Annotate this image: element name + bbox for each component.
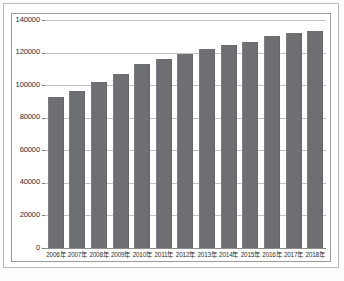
bar-series	[45, 20, 326, 248]
bar-slot	[239, 20, 261, 248]
y-axis-tick-label: 20000	[20, 211, 40, 219]
bar-2015年[interactable]	[242, 42, 258, 248]
bar-2017年[interactable]	[286, 33, 302, 248]
bar-2016年[interactable]	[264, 36, 280, 248]
bar-2014年[interactable]	[221, 45, 237, 248]
x-axis-tick-label: 2006年	[45, 250, 67, 259]
bar-2018年[interactable]	[307, 31, 323, 248]
bar-2012年[interactable]	[177, 54, 193, 248]
bar-slot	[110, 20, 132, 248]
figure-caption	[96, 272, 306, 279]
bar-slot	[153, 20, 175, 248]
x-axis-tick-label: 2014年	[218, 250, 240, 259]
bar-slot	[218, 20, 240, 248]
x-axis-tick-label: 2009年	[110, 250, 132, 259]
bar-2008年[interactable]	[91, 82, 107, 248]
y-axis-tick-label: 60000	[20, 146, 40, 154]
bar-slot	[304, 20, 326, 248]
x-axis-tick-label: 2016年	[261, 250, 283, 259]
x-axis-tick-label: 2008年	[88, 250, 110, 259]
bar-chart-figure: 020000400006000080000100000120000140000 …	[0, 0, 344, 281]
x-axis-labels: 2006年2007年2008年2009年2010年2011年2012年2013年…	[45, 250, 326, 259]
bar-slot	[88, 20, 110, 248]
x-axis-tick-label: 2010年	[131, 250, 153, 259]
bar-slot	[45, 20, 67, 248]
bar-slot	[175, 20, 197, 248]
x-axis-tick-label: 2007年	[67, 250, 89, 259]
gridline-0	[45, 248, 326, 249]
y-axis-tick-label: 120000	[16, 48, 40, 56]
x-axis-tick-label: 2018年	[304, 250, 326, 259]
plot-area: 020000400006000080000100000120000140000	[45, 20, 326, 248]
bar-2013年[interactable]	[199, 49, 215, 248]
bar-slot	[131, 20, 153, 248]
bar-slot	[261, 20, 283, 248]
y-axis-tick-label: 0	[36, 244, 40, 252]
x-axis-tick-label: 2015年	[239, 250, 261, 259]
bar-2009年[interactable]	[113, 74, 129, 248]
bar-slot	[67, 20, 89, 248]
y-axis-tick-label: 140000	[16, 16, 40, 24]
x-axis-tick-label: 2017年	[283, 250, 305, 259]
x-axis-tick-label: 2011年	[153, 250, 175, 259]
bar-2007年[interactable]	[69, 91, 85, 248]
y-tick-mark-0	[42, 248, 45, 249]
bar-2006年[interactable]	[48, 97, 64, 248]
bar-2011年[interactable]	[156, 59, 172, 248]
bar-slot	[283, 20, 305, 248]
x-axis-tick-label: 2013年	[196, 250, 218, 259]
y-axis-tick-label: 40000	[20, 178, 40, 186]
bar-slot	[196, 20, 218, 248]
x-axis-tick-label: 2012年	[175, 250, 197, 259]
y-axis-tick-label: 80000	[20, 113, 40, 121]
y-axis-tick-label: 100000	[16, 81, 40, 89]
bar-2010年[interactable]	[134, 64, 150, 248]
